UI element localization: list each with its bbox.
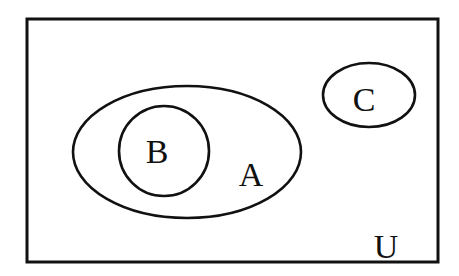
universe-label: U xyxy=(374,228,399,265)
set-b-label: B xyxy=(146,133,169,170)
set-a-ellipse xyxy=(73,86,301,218)
set-a-label: A xyxy=(239,156,264,193)
universe-rectangle xyxy=(27,19,438,262)
venn-diagram: B A C U xyxy=(0,0,459,276)
set-c-label: C xyxy=(353,81,376,118)
